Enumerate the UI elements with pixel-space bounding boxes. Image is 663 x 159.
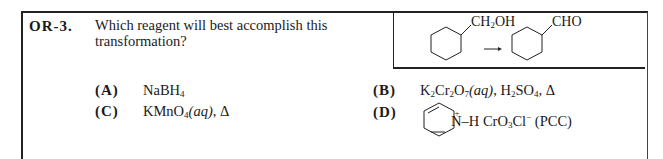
option-d-text: N+–H CrO3Cl− (PCC) <box>451 112 572 130</box>
question-text: Which reagent will best accomplish this … <box>95 17 355 49</box>
option-b-letter: (B) <box>373 82 396 99</box>
option-b-text[interactable]: K2Cr2O7(aq), H2SO4, Δ <box>420 82 555 99</box>
option-c-text[interactable]: KMnO4(aq), Δ <box>143 103 229 120</box>
option-a-letter: (A) <box>95 82 119 99</box>
option-c-letter: (C) <box>95 103 119 120</box>
option-d-letter: (D) <box>373 104 397 121</box>
reaction-box: CH2OH CHO <box>393 11 645 69</box>
option-a-text[interactable]: NaBH4 <box>143 82 185 99</box>
reaction-scheme-icon <box>394 11 645 67</box>
product-group: CHO <box>552 14 582 30</box>
question-number: OR-3. <box>29 18 73 35</box>
reactant-group: CH2OH <box>471 14 515 30</box>
